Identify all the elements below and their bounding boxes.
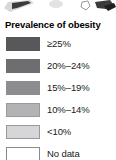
legend-item: 15%–19% [0, 77, 116, 99]
legend-item: No data [0, 143, 116, 160]
legend-panel: Prevalence of obesity ≥25% 20%–24% 15%–1… [0, 18, 116, 160]
map-fragment-shapes [0, 0, 116, 18]
swatch-ge-25 [6, 37, 40, 51]
legend-item: ≥25% [0, 33, 116, 55]
legend-item-label: No data [47, 149, 80, 159]
swatch-15-19 [6, 81, 40, 95]
legend-item: 20%–24% [0, 55, 116, 77]
swatch-20-24 [6, 59, 40, 73]
map-shape-outline [81, 1, 90, 10]
map-fragments [0, 0, 116, 18]
legend-item-label: <10% [47, 127, 71, 137]
swatch-10-14 [6, 103, 40, 117]
legend-item-label: 10%–14% [47, 105, 90, 115]
swatch-no-data [6, 147, 40, 160]
legend-item: <10% [0, 121, 116, 143]
legend-item-label: 15%–19% [47, 83, 90, 93]
swatch-lt-10 [6, 125, 40, 139]
legend-item-label: 20%–24% [47, 61, 90, 71]
legend-item: 10%–14% [0, 99, 116, 121]
map-shape-center [49, 0, 63, 8]
legend-title: Prevalence of obesity [0, 18, 116, 30]
legend-items-list: ≥25% 20%–24% 15%–19% 10%–14% <10% No dat… [0, 33, 116, 160]
legend-item-label: ≥25% [47, 39, 71, 49]
